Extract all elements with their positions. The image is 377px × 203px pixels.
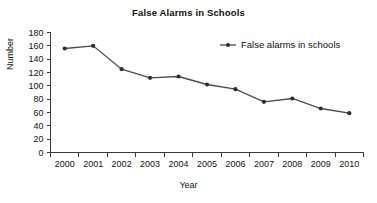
y-tick-label: 20 (33, 134, 43, 144)
x-tick-label: 2005 (197, 159, 217, 169)
y-tick-label: 100 (28, 81, 43, 91)
data-point (347, 111, 351, 115)
data-point (205, 82, 209, 86)
x-tick-label: 2009 (311, 159, 331, 169)
x-tick-label: 2004 (169, 159, 189, 169)
data-point (120, 67, 124, 71)
data-point (148, 76, 152, 80)
plot-area: 020406080100120140160180 200020012002200… (0, 0, 377, 203)
y-axis-tick-group: 020406080100120140160180 (28, 28, 50, 158)
x-axis-tick-group: 2000200120022003200420052006200720082009… (51, 153, 364, 169)
data-point (176, 74, 180, 78)
data-point (233, 87, 237, 91)
chart-legend: False alarms in schools (220, 39, 341, 50)
y-tick-label: 180 (28, 28, 43, 38)
x-tick-label: 2010 (339, 159, 359, 169)
x-tick-label: 2008 (282, 159, 302, 169)
y-tick-label: 60 (33, 108, 43, 118)
y-tick-label: 40 (33, 121, 43, 131)
y-tick-label: 0 (38, 148, 43, 158)
chart-container: False Alarms in Schools Number Year 0204… (0, 0, 377, 203)
x-tick-label: 2007 (254, 159, 274, 169)
x-tick-label: 2006 (225, 159, 245, 169)
legend-label: False alarms in schools (241, 39, 341, 50)
data-point (63, 46, 67, 50)
series-line-false-alarms (65, 46, 350, 113)
data-point (319, 106, 323, 110)
data-point (290, 96, 294, 100)
x-tick-label: 2000 (55, 159, 75, 169)
y-tick-label: 80 (33, 94, 43, 104)
x-tick-label: 2003 (140, 159, 160, 169)
x-tick-label: 2002 (112, 159, 132, 169)
data-point (262, 100, 266, 104)
y-tick-label: 140 (28, 54, 43, 64)
legend-marker-swatch (226, 43, 230, 47)
data-point (91, 44, 95, 48)
x-tick-label: 2001 (83, 159, 103, 169)
y-tick-label: 160 (28, 41, 43, 51)
y-tick-label: 120 (28, 68, 43, 78)
